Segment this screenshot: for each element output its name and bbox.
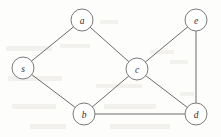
graph-figure: sabcde [0,0,221,137]
graph-edge-c-d [146,76,188,108]
graph-node-b: b [73,103,95,125]
graph-edge-s-b [32,75,75,108]
graph-edge-c-e [145,27,187,62]
graph-node-a: a [71,9,93,31]
graph-canvas: sabcde [0,0,221,137]
graph-node-label-a: a [80,16,85,26]
graph-node-s: s [12,57,34,79]
graph-node-label-s: s [21,64,25,74]
graph-edge-s-a [32,27,74,61]
graph-edge-b-c [92,76,128,107]
graph-node-label-b: b [82,110,87,120]
node-layer: sabcde [12,9,207,125]
graph-node-d: d [185,103,207,125]
graph-node-e: e [185,9,207,31]
graph-node-label-e: e [194,16,198,26]
graph-node-c: c [126,58,148,80]
graph-node-label-d: d [194,110,199,120]
graph-edge-a-c [90,27,129,61]
edge-layer [32,27,196,114]
